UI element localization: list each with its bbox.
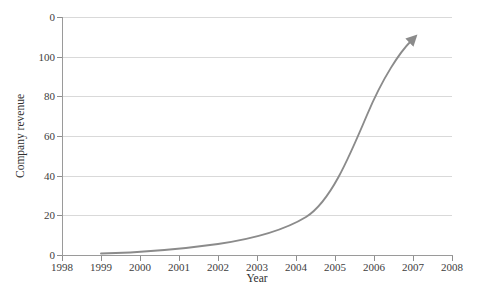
revenue-curve	[101, 41, 411, 254]
x-axis-title: Year	[246, 272, 267, 284]
chart-figure: 0 100 80 60 40 20 0 19	[0, 0, 490, 292]
revenue-curve-layer	[0, 0, 490, 292]
y-axis-title: Company revenue	[14, 94, 26, 178]
